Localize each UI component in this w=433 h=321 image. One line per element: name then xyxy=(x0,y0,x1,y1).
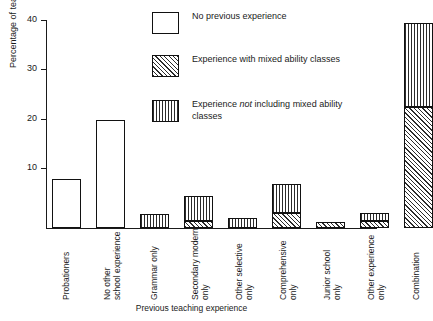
x-label-comprehensive-only: Comprehensive only xyxy=(279,240,298,300)
x-axis-title: Previous teaching experience xyxy=(0,303,383,313)
legend-label-line: Experience with xyxy=(192,54,256,64)
x-label-line: only xyxy=(333,250,343,300)
segment-no-previous-experience xyxy=(96,120,125,229)
x-label-combination: Combination xyxy=(412,252,422,300)
legend-label-line: Experience not including xyxy=(192,99,290,109)
clipped-title-remnant xyxy=(150,0,380,2)
legend-label-line: classes xyxy=(310,54,340,64)
x-label-line: only xyxy=(289,240,299,300)
x-label-line: Combination xyxy=(412,252,422,300)
x-label-no-other-school-experience: No other school experience xyxy=(103,231,122,300)
x-label-line: Grammar only xyxy=(150,246,160,300)
legend-label-line: No previous xyxy=(192,11,240,21)
y-tick-label-20: 20 xyxy=(13,114,37,123)
segment-experience-not-including-mixed xyxy=(140,214,169,228)
bar-probationers xyxy=(52,179,81,228)
legend-label: Experience not including mixed ability c… xyxy=(192,99,372,122)
bar-comprehensive-only xyxy=(272,184,301,228)
x-label-other-selective-only: Other selective only xyxy=(235,243,254,300)
x-label-line: only xyxy=(201,228,211,300)
segment-experience-not-including-mixed xyxy=(360,213,389,220)
segment-experience-not-including-mixed xyxy=(228,218,257,228)
x-label-grammar-only: Grammar only xyxy=(150,246,160,300)
bar-grammar-only xyxy=(140,214,169,228)
x-label-line: school experience xyxy=(113,231,123,300)
legend-swatch-vertical-lines-icon xyxy=(152,100,179,122)
y-axis-title: Percentage of teachers xyxy=(8,0,18,68)
legend-swatch-plain-icon xyxy=(152,12,179,34)
bar-junior-school-only xyxy=(316,222,345,228)
legend-label: Experience with mixed ability classes xyxy=(192,54,372,66)
x-axis-line xyxy=(46,228,377,229)
x-label-line: only xyxy=(377,235,387,300)
x-label-line: only xyxy=(245,243,255,300)
x-label-probationers: Probationers xyxy=(62,252,72,300)
segment-experience-not-including-mixed xyxy=(184,196,213,221)
legend-label: No previous experience xyxy=(192,11,372,23)
bar-other-experience-only xyxy=(360,213,389,228)
legend-word: including xyxy=(255,99,291,109)
legend-word-emphasis: not xyxy=(240,99,253,109)
bar-secondary-modern-only xyxy=(184,196,213,228)
x-label-junior-school-only: Junior school only xyxy=(323,250,342,300)
bar-no-other-school-experience xyxy=(96,120,125,229)
x-label-line: Probationers xyxy=(62,252,72,300)
y-tick-label-10: 10 xyxy=(13,163,37,172)
legend-swatch-hatch-icon xyxy=(152,55,179,77)
x-label-other-experience-only: Other experience only xyxy=(367,235,386,300)
segment-experience-not-including-mixed xyxy=(404,23,433,107)
segment-experience-with-mixed xyxy=(360,221,389,228)
segment-experience-not-including-mixed xyxy=(272,184,301,214)
bar-other-selective-only xyxy=(228,218,257,228)
segment-experience-with-mixed xyxy=(316,222,345,228)
legend-word: Experience xyxy=(192,99,237,109)
bar-combination xyxy=(404,23,433,228)
x-label-secondary-modern-only: Secondary modern only xyxy=(191,228,210,300)
legend-label-line: experience xyxy=(243,11,287,21)
segment-experience-with-mixed xyxy=(404,107,433,228)
segment-experience-with-mixed xyxy=(272,213,301,228)
x-tick-labels: Probationers No other school experience … xyxy=(46,232,377,302)
legend-label-line: mixed ability xyxy=(258,54,308,64)
segment-no-previous-experience xyxy=(52,179,81,228)
segment-experience-with-mixed xyxy=(184,221,213,228)
